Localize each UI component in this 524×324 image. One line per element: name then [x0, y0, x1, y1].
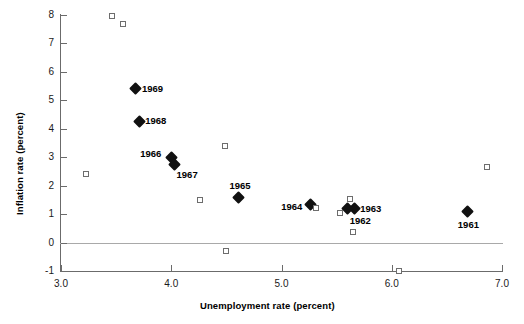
y-tick-mark — [61, 157, 67, 158]
data-point-filled-diamond — [461, 205, 474, 218]
data-point-open-square — [347, 196, 353, 202]
data-point-label: 1964 — [281, 202, 302, 212]
x-tick-mark — [502, 265, 503, 271]
x-tick-mark — [171, 265, 172, 271]
x-tick-label: 6.0 — [377, 279, 407, 289]
x-tick-label: 7.0 — [487, 279, 517, 289]
y-axis-title: Inflation rate (percent) — [14, 112, 25, 215]
y-tick-label: 6 — [32, 67, 54, 77]
y-tick-mark — [61, 214, 67, 215]
x-tick-label: 3.0 — [46, 279, 76, 289]
data-point-open-square — [223, 248, 229, 254]
data-point-open-square — [350, 229, 356, 235]
y-tick-label: 0 — [32, 238, 54, 248]
x-tick-label: 4.0 — [156, 279, 186, 289]
y-tick-mark — [61, 15, 67, 16]
y-tick-mark — [61, 43, 67, 44]
data-point-label: 1968 — [145, 116, 166, 126]
data-point-open-square — [396, 268, 402, 274]
data-point-open-square — [484, 164, 490, 170]
y-tick-mark — [61, 100, 67, 101]
zero-reference-line — [60, 243, 503, 244]
y-tick-mark — [61, 129, 67, 130]
data-point-label: 1966 — [140, 149, 161, 159]
data-point-open-square — [109, 13, 115, 19]
data-point-label: 1967 — [177, 170, 198, 180]
data-point-label: 1969 — [142, 84, 163, 94]
y-tick-label: 7 — [32, 38, 54, 48]
x-axis-line — [60, 271, 503, 272]
y-tick-label: 5 — [32, 95, 54, 105]
y-tick-label: 8 — [32, 10, 54, 20]
data-point-filled-diamond — [232, 192, 245, 205]
data-point-label: 1962 — [350, 216, 371, 226]
y-tick-label: 3 — [32, 152, 54, 162]
data-point-label: 1961 — [458, 220, 479, 230]
y-tick-label: 2 — [32, 181, 54, 191]
y-tick-label: -1 — [32, 266, 54, 276]
x-tick-mark — [282, 265, 283, 271]
x-tick-mark — [61, 265, 62, 271]
y-tick-label: 4 — [32, 124, 54, 134]
y-tick-mark — [61, 271, 67, 272]
x-tick-label: 5.0 — [267, 279, 297, 289]
data-point-open-square — [197, 197, 203, 203]
data-point-open-square — [222, 143, 228, 149]
data-point-label: 1965 — [230, 181, 251, 191]
x-axis-title: Unemployment rate (percent) — [200, 300, 335, 311]
x-tick-mark — [392, 265, 393, 271]
y-axis-line — [60, 14, 61, 272]
y-tick-mark — [61, 243, 67, 244]
data-point-open-square — [313, 205, 319, 211]
y-tick-label: 1 — [32, 209, 54, 219]
data-point-filled-diamond — [133, 115, 146, 128]
scatter-plot: 876543210-1 3.04.05.06.07.0 196919681966… — [0, 0, 524, 324]
data-point-open-square — [337, 210, 343, 216]
y-tick-mark — [61, 72, 67, 73]
data-point-open-square — [120, 21, 126, 27]
y-tick-mark — [61, 186, 67, 187]
data-point-open-square — [83, 171, 89, 177]
data-point-label: 1963 — [360, 204, 381, 214]
data-point-filled-diamond — [130, 82, 143, 95]
